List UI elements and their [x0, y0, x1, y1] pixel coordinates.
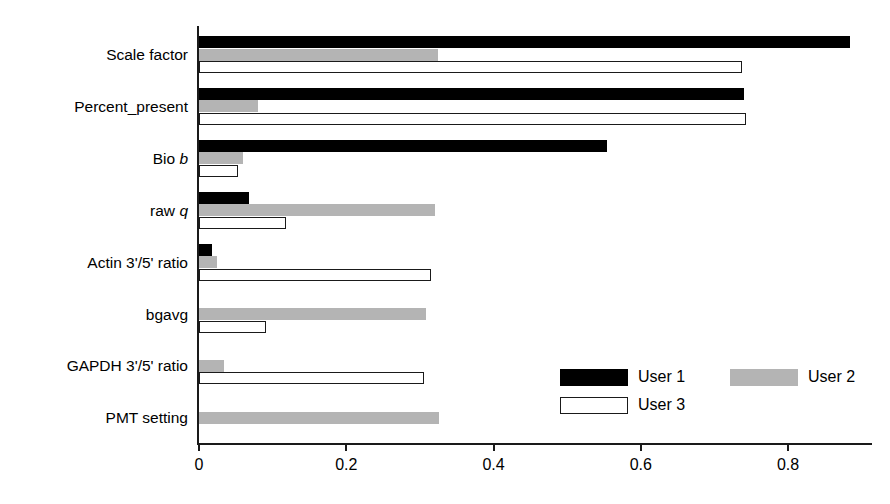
bar[interactable] — [199, 256, 217, 268]
bar[interactable] — [199, 100, 258, 112]
x-axis-tick — [345, 443, 347, 451]
bar[interactable] — [199, 36, 850, 48]
x-axis-tick — [493, 443, 495, 451]
bar-chart: Scale factorPercent_presentBio braw qAct… — [0, 0, 890, 504]
bar-group — [199, 88, 859, 132]
legend-label: User 3 — [638, 395, 685, 415]
bar-group — [199, 140, 859, 184]
category-label: PMT setting — [0, 410, 188, 426]
bar[interactable] — [199, 244, 212, 256]
bar[interactable] — [199, 269, 431, 281]
legend-label: User 1 — [638, 367, 685, 387]
bar[interactable] — [199, 61, 742, 73]
x-axis-tick — [198, 443, 200, 451]
bar[interactable] — [199, 217, 286, 229]
category-label: Percent_present — [0, 99, 188, 115]
x-axis-tick-label: 0 — [169, 456, 229, 474]
bar[interactable] — [199, 88, 744, 100]
bar[interactable] — [199, 152, 243, 164]
category-label: GAPDH 3'/5' ratio — [0, 358, 188, 374]
x-axis-tick-label: 0.6 — [611, 456, 671, 474]
category-label: Scale factor — [0, 47, 188, 63]
bar-group — [199, 244, 859, 288]
legend: User 1User 2User 3 — [560, 367, 860, 423]
white-outline-swatch — [560, 397, 628, 414]
x-axis-line — [197, 443, 872, 445]
solid-black-swatch — [560, 369, 628, 386]
gray-swatch — [730, 369, 798, 386]
bar-group — [199, 192, 859, 236]
x-axis-tick — [640, 443, 642, 451]
x-axis-tick-label: 0.4 — [464, 456, 524, 474]
bar[interactable] — [199, 308, 426, 320]
bar[interactable] — [199, 372, 424, 384]
bar[interactable] — [199, 360, 224, 372]
bar-group — [199, 36, 859, 80]
bar-group — [199, 296, 859, 340]
category-label: Actin 3'/5' ratio — [0, 255, 188, 271]
bar[interactable] — [199, 165, 238, 177]
category-label: raw q — [0, 203, 188, 219]
bar[interactable] — [199, 204, 435, 216]
bar[interactable] — [199, 412, 439, 424]
x-axis-tick — [787, 443, 789, 451]
bar[interactable] — [199, 192, 249, 204]
bar[interactable] — [199, 113, 746, 125]
bar[interactable] — [199, 49, 438, 61]
category-label: Bio b — [0, 151, 188, 167]
x-axis-tick-label: 0.2 — [316, 456, 376, 474]
category-label: bgavg — [0, 307, 188, 323]
legend-label: User 2 — [808, 367, 855, 387]
bar[interactable] — [199, 321, 266, 333]
x-axis-tick-label: 0.8 — [758, 456, 818, 474]
bar[interactable] — [199, 140, 607, 152]
